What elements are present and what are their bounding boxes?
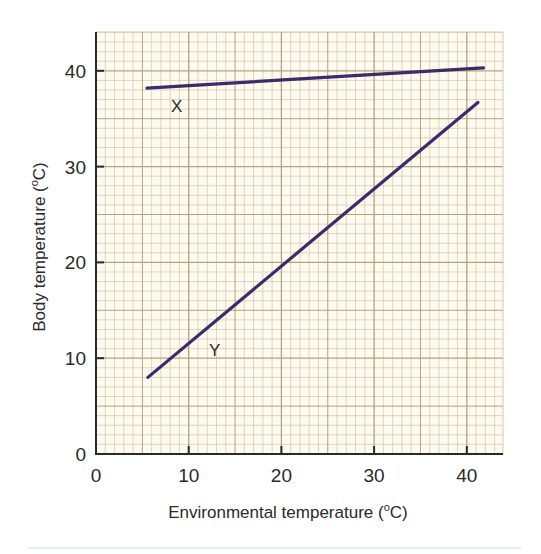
- x-tick-label: 40: [456, 465, 477, 486]
- y-tick-label: 20: [65, 252, 86, 273]
- x-tick-label: 0: [91, 465, 102, 486]
- y-tick-label: 40: [65, 61, 86, 82]
- y-axis-title: Body temperature (oC): [28, 162, 49, 332]
- x-tick-label: 30: [364, 465, 385, 486]
- series-label-x: X: [171, 97, 182, 116]
- bottom-divider: [28, 547, 521, 549]
- series-label-y: Y: [209, 341, 220, 360]
- x-tick-label: 20: [271, 465, 292, 486]
- x-tick-label: 10: [178, 465, 199, 486]
- y-tick-label: 0: [75, 444, 86, 465]
- line-chart: 010203040010203040 XY Environmental temp…: [0, 0, 541, 554]
- y-tick-label: 30: [65, 157, 86, 178]
- x-axis-title: Environmental temperature (oC): [168, 501, 408, 522]
- y-tick-label: 10: [65, 348, 86, 369]
